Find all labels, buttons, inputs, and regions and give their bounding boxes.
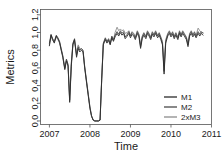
x-tick-label: 2011 [202,129,221,139]
x-axis-title: Time [114,140,138,152]
y-tick-label: 0.4 [30,79,40,92]
y-tick-label: 0.6 [30,62,40,75]
chart-canvas: 0.00.20.40.60.81.01.22007200820092010201… [0,0,223,155]
legend: M1M22xM3 [164,93,201,122]
line-chart: 0.00.20.40.60.81.01.22007200820092010201… [0,0,223,155]
x-axis: 20072008200920102011 [39,125,221,139]
y-tick-label: 0.8 [30,44,40,57]
y-axis: 0.00.20.40.60.81.01.2 [30,9,41,128]
x-tick-label: 2010 [161,129,181,139]
y-tick-label: 0.2 [30,97,40,110]
legend-label-m2: M2 [181,103,193,112]
series-line-m1 [49,33,203,121]
legend-label-m1: M1 [181,93,193,102]
y-tick-label: 1.2 [30,9,40,22]
x-tick-label: 2009 [120,129,140,139]
x-tick-label: 2008 [80,129,100,139]
series-line-m2 [49,31,203,121]
series-line-2xm3 [49,27,203,121]
y-axis-title: Metrics [4,49,16,85]
y-tick-label: 1.0 [30,26,40,39]
legend-label-2xm3: 2xM3 [181,113,201,122]
x-tick-label: 2007 [39,129,59,139]
y-tick-label: 0.0 [30,115,40,128]
data-series-group [49,27,203,121]
